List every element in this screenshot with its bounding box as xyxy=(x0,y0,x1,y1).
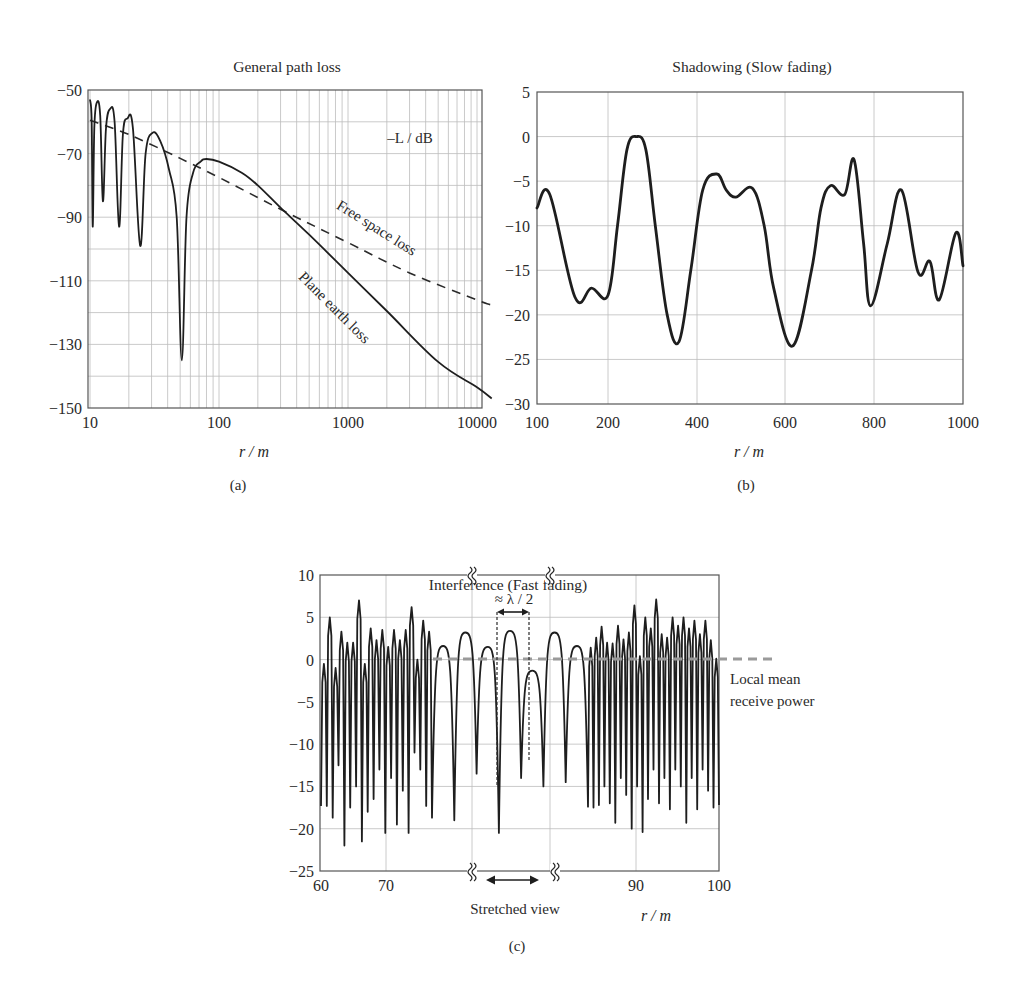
x-tick-label: 200 xyxy=(596,414,620,431)
stretched-arrowhead-right xyxy=(530,876,539,885)
x-tick-label: 100 xyxy=(707,877,731,894)
free-space-loss-curve xyxy=(90,120,492,305)
x-tick-label: 10 xyxy=(82,414,98,431)
panel-c: Interference (Fast fading) 1050−5−10−15−… xyxy=(289,567,815,955)
figure: General path loss −50−70−90−110−130−150 … xyxy=(0,0,1021,983)
x-tick-label: 10000 xyxy=(457,414,497,431)
local-mean-label-line2: receive power xyxy=(730,693,815,709)
y-tick-label: 0 xyxy=(306,652,314,669)
y-tick-label: −70 xyxy=(57,146,82,163)
panel-a-title: General path loss xyxy=(233,58,341,75)
panel-c-caption: (c) xyxy=(509,938,526,955)
y-tick-label: −15 xyxy=(289,778,314,795)
fast-fading-curve xyxy=(321,600,719,846)
y-tick-label: 10 xyxy=(298,567,314,584)
y-tick-label: −20 xyxy=(289,821,314,838)
x-tick-label: 70 xyxy=(378,877,394,894)
panel-b-y-tick-labels: 50−5−10−15−20−25−30 xyxy=(505,84,530,413)
y-tick-label: −15 xyxy=(505,262,530,279)
axis-break-bottom-right xyxy=(550,863,560,881)
lambda-half-label: ≈ λ / 2 xyxy=(495,591,533,607)
panel-b: Shadowing (Slow fading) 50−5−10−15−20−25… xyxy=(505,58,979,494)
panel-b-x-tick-labels: 1002004006008001000 xyxy=(525,414,979,431)
x-tick-label: 800 xyxy=(862,414,886,431)
y-tick-label: 0 xyxy=(522,129,530,146)
lambda-arrowhead-right xyxy=(522,609,529,616)
x-tick-label: 1000 xyxy=(332,414,364,431)
y-tick-label: −50 xyxy=(57,82,82,99)
y-tick-label: −25 xyxy=(505,351,530,368)
panel-a-y-tick-labels: −50−70−90−110−130−150 xyxy=(49,82,82,417)
y-tick-label: −20 xyxy=(505,307,530,324)
y-tick-label: −130 xyxy=(49,336,82,353)
y-tick-label: −30 xyxy=(505,396,530,413)
panel-a-x-tick-labels: 10100100010000 xyxy=(82,414,497,431)
x-tick-label: 90 xyxy=(628,877,644,894)
panel-c-x-axis-label: r / m xyxy=(641,907,671,924)
x-tick-label: 60 xyxy=(313,877,329,894)
y-tick-label: −10 xyxy=(505,218,530,235)
lambda-arrowhead-left xyxy=(497,609,504,616)
axis-break-bottom-left xyxy=(467,863,477,881)
free-space-loss-label: Free space loss xyxy=(334,197,420,259)
stretched-arrowhead-left xyxy=(486,876,495,885)
panel-a: General path loss −50−70−90−110−130−150 … xyxy=(49,58,497,494)
y-tick-label: 5 xyxy=(522,84,530,101)
x-tick-label: 100 xyxy=(525,414,549,431)
x-tick-label: 1000 xyxy=(947,414,979,431)
x-tick-label: 600 xyxy=(773,414,797,431)
y-tick-label: −110 xyxy=(50,273,82,290)
panel-a-caption: (a) xyxy=(230,477,247,494)
y-tick-label: −5 xyxy=(513,173,530,190)
y-tick-label: −90 xyxy=(57,209,82,226)
panel-b-frame xyxy=(537,92,963,404)
plane-earth-loss-label: Plane earth loss xyxy=(296,269,374,347)
local-mean-label-line1: Local mean xyxy=(730,671,801,687)
panel-c-y-tick-labels: 1050−5−10−15−20−25 xyxy=(289,567,314,880)
panel-a-ylabel-annotation: –L / dB xyxy=(386,130,432,146)
panel-b-x-axis-label: r / m xyxy=(734,443,764,460)
panel-b-grid xyxy=(537,92,963,404)
stretched-view-label: Stretched view xyxy=(470,901,560,917)
panel-b-caption: (b) xyxy=(737,477,755,494)
y-tick-label: 5 xyxy=(306,609,314,626)
panel-a-x-axis-label: r / m xyxy=(239,443,269,460)
y-tick-label: −10 xyxy=(289,736,314,753)
y-tick-label: −150 xyxy=(49,400,82,417)
panel-b-title: Shadowing (Slow fading) xyxy=(672,58,831,76)
y-tick-label: −5 xyxy=(297,694,314,711)
x-tick-label: 400 xyxy=(685,414,709,431)
y-tick-label: −25 xyxy=(289,863,314,880)
x-tick-label: 100 xyxy=(207,414,231,431)
